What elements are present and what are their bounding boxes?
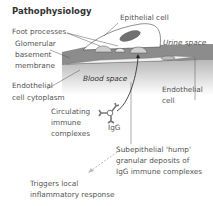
endothelial-nucleus — [161, 56, 175, 60]
label-circulating-3: complexes — [51, 130, 90, 139]
label-epithelial-cell: Epithelial cell — [120, 14, 169, 23]
label-urine-space: Urine space — [163, 39, 206, 48]
label-endo-cyto-1: Endothelial — [12, 82, 53, 91]
igg-complex-icon — [99, 103, 119, 123]
label-igg: IgG — [108, 124, 120, 133]
label-gbm-1: Glomerular — [15, 40, 56, 49]
label-deposits-1: Subepithelial 'hump' — [116, 146, 191, 155]
label-deposits-2: granular deposits of — [116, 157, 189, 166]
label-circulating-2: immune — [51, 119, 81, 128]
label-circulating-1: Circulating — [51, 108, 90, 117]
page-title: Pathophysiology — [12, 6, 92, 16]
label-endo-cyto-2: cell cytoplasm — [12, 94, 65, 103]
label-gbm-2: basement — [15, 51, 51, 60]
label-endothelial-cell-1: Endothelial — [162, 86, 203, 95]
label-deposits-3: IgG immune complexes — [116, 168, 202, 177]
label-endothelial-cell-2: cell — [162, 97, 175, 106]
label-gbm-3: membrane — [15, 62, 55, 71]
label-triggers-1: Triggers local — [30, 180, 78, 189]
label-triggers-2: inflammatory response — [30, 191, 115, 200]
label-blood-space: Blood space — [83, 75, 127, 84]
label-foot-processes: Foot processes — [12, 28, 66, 37]
